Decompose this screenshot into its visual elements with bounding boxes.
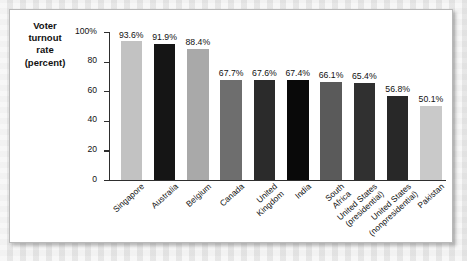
x-axis-category-label-line: Australia [149,182,180,211]
y-axis-tick-mark [104,150,111,151]
voter-turnout-bar-chart: Voter turnout rate (percent) 02040608010… [9,9,453,243]
x-axis-category-label: Canada [218,182,246,209]
bar: 50.1% [420,106,442,180]
y-axis-tick-mark [104,180,110,181]
bar: 91.9% [154,44,176,180]
bar-value-label: 56.8% [385,84,410,94]
bar-value-label: 67.4% [285,68,310,78]
y-axis-title: Voter turnout rate (percent) [16,20,74,69]
x-axis-category-label-line: India [293,182,313,201]
y-axis-tick-mark [104,121,111,122]
bar: 88.4% [187,49,209,180]
x-axis-category-label-line: Canada [218,182,246,209]
bar: 56.8% [387,96,409,180]
bar-value-label: 88.4% [186,37,211,47]
y-axis-title-line-2: turnout [16,32,74,44]
x-axis-category-label: Belgium [184,182,213,209]
x-axis-category-label: Singapore [112,182,147,215]
plot-area: 020406080100% 93.6%91.9%88.4%67.7%67.6%6… [100,23,446,181]
bar: 93.6% [121,41,143,180]
bar-value-label: 50.1% [419,94,444,104]
bar: 65.4% [354,83,376,180]
bar-value-label: 91.9% [152,32,177,42]
y-axis-tick-label: 80 [87,55,97,65]
bar: 67.6% [254,80,276,180]
y-axis-tick-label: 60 [87,85,97,95]
x-axis-category-label-line: Singapore [112,182,147,215]
y-axis-title-line-3: rate [16,44,74,56]
y-axis-tick-mark [104,62,111,63]
y-axis-tick-mark [104,32,110,33]
bar: 67.7% [220,80,242,180]
x-axis-category-label: Pakistan [416,182,446,211]
y-axis-tick-label: 20 [87,144,97,154]
bar-value-label: 93.6% [119,30,144,40]
bar-value-label: 67.7% [219,68,244,78]
bar: 66.1% [320,82,342,180]
bar: 67.4% [287,80,309,180]
bar-value-label: 65.4% [352,71,377,81]
y-axis-tick-label: 100% [75,26,97,36]
x-axis-category-label: UnitedKingdom [249,182,286,218]
y-axis-title-line-1: Voter [16,20,74,32]
x-axis-category-label: Australia [149,182,180,211]
bar-value-label: 66.1% [319,70,344,80]
y-axis-line [109,32,110,181]
x-axis-category-label-line: Pakistan [416,182,446,211]
y-axis-tick-label: 0 [92,174,97,184]
x-axis-category-labels: SingaporeAustraliaBelgiumCanadaUnitedKin… [100,182,450,242]
y-axis-title-line-4: (percent) [16,57,74,69]
y-axis-tick-mark [104,91,111,92]
y-axis-tick-label: 40 [87,114,97,124]
bar-value-label: 67.6% [252,68,277,78]
x-axis-category-label: India [293,182,313,201]
x-axis-category-label-line: Belgium [184,182,213,209]
